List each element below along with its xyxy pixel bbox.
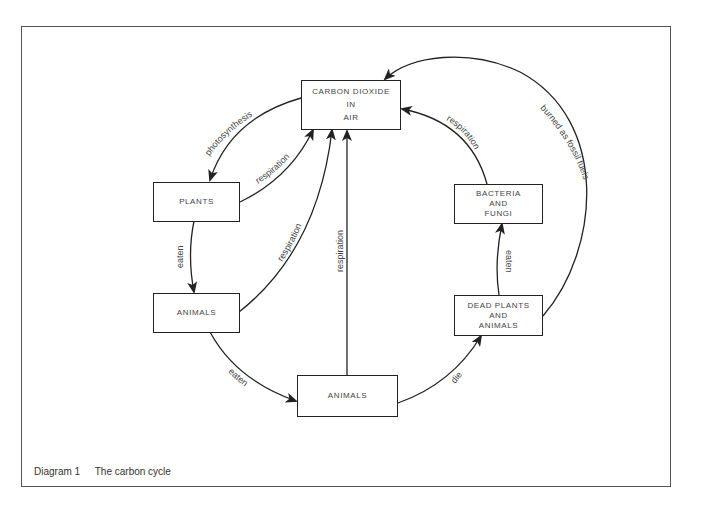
diagram-arrows: photosynthesis respiration respiration r… [0,0,703,520]
plants-respiration-label: respiration [254,151,292,185]
node-line: ANIMALS [479,321,518,331]
node-dead-plants-animals: DEAD PLANTS AND ANIMALS [454,295,543,336]
node-line: IN [346,100,355,110]
plants-eaten-label: eaten [175,245,185,268]
animals-eaten-arrow [210,332,296,401]
node-line: AND [489,199,508,209]
node-line: FUNGI [485,209,513,219]
node-plants: PLANTS [153,182,240,222]
node-animals-left: ANIMALS [153,293,240,333]
node-line: BACTERIA [476,189,521,199]
node-line: ANIMALS [177,308,216,318]
dead-eaten-label: eaten [504,250,514,273]
animals-bottom-respiration-label: respiration [335,230,345,272]
caption-title: The carbon cycle [95,466,171,477]
diagram-caption: Diagram 1 The carbon cycle [34,466,171,477]
dead-eaten-arrow [497,224,502,295]
die-arrow [398,336,481,403]
node-line: DEAD PLANTS [467,301,529,311]
node-animals-bottom: ANIMALS [297,375,398,417]
node-line: AIR [343,113,358,123]
node-line: CARBON DIOXIDE [312,87,390,97]
carbon-cycle-diagram: photosynthesis respiration respiration r… [0,0,703,520]
node-bacteria-fungi: BACTERIA AND FUNGI [454,184,543,224]
node-line: AND [489,311,508,321]
node-carbon-dioxide: CARBON DIOXIDE IN AIR [301,80,401,130]
node-line: PLANTS [179,197,214,207]
node-line: ANIMALS [328,391,367,401]
plants-eaten-arrow [191,221,195,292]
photosynthesis-label: photosynthesis [203,109,255,158]
bacteria-respiration-label: respiration [445,113,482,151]
caption-number: Diagram 1 [34,466,80,477]
animals-eaten-label: eaten [227,366,250,388]
